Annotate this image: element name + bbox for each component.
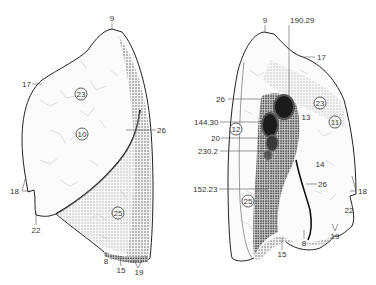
circled-label-12: 12 [230, 123, 242, 135]
label-18-right: 18 [358, 187, 367, 196]
label-19-left: 19 [135, 268, 144, 277]
label-22-right: 22 [345, 206, 354, 215]
svg-text:10: 10 [78, 130, 87, 139]
label-9-right: 9 [263, 16, 268, 25]
bronchus-upper [274, 95, 294, 119]
lateral-lung-view [22, 29, 153, 263]
bronchus-middle [262, 113, 278, 137]
svg-text:25: 25 [244, 197, 253, 206]
label-8-right: 8 [302, 239, 307, 248]
vessel-small [264, 150, 272, 160]
circled-label-10: 10 [76, 128, 88, 140]
svg-text:23: 23 [316, 99, 325, 108]
label-144-30: 144.30 [194, 118, 219, 127]
circled-label-25-right: 25 [242, 195, 254, 207]
label-15-left: 15 [117, 266, 126, 275]
label-20: 20 [211, 134, 220, 143]
label-17-right: 17 [317, 53, 326, 62]
label-15-right: 15 [278, 250, 287, 259]
label-13: 13 [302, 113, 311, 122]
lung-diagram: 23 10 25 9 17 26 18 22 8 15 19 [0, 0, 376, 285]
label-19-right: 19 [331, 232, 340, 241]
label-17: 17 [22, 80, 31, 89]
label-14: 14 [316, 160, 325, 169]
svg-text:23: 23 [77, 90, 86, 99]
circled-label-25: 25 [112, 207, 124, 219]
label-26-right-upper: 26 [216, 95, 225, 104]
label-26-right-lower: 26 [318, 180, 327, 189]
label-26-left: 26 [157, 126, 166, 135]
circled-label-11: 11 [329, 116, 341, 128]
label-190-29: 190.29 [290, 16, 315, 25]
label-22-left: 22 [32, 226, 41, 235]
svg-text:12: 12 [232, 125, 241, 134]
label-230-2: 230.2 [198, 147, 219, 156]
circled-label-23: 23 [75, 88, 87, 100]
circled-label-23-right: 23 [314, 97, 326, 109]
label-18-left: 18 [10, 187, 19, 196]
label-9: 9 [110, 14, 115, 23]
label-152-23: 152.23 [193, 185, 218, 194]
vessel-lower [266, 135, 278, 151]
label-8-left: 8 [104, 257, 109, 266]
svg-text:11: 11 [331, 118, 340, 127]
svg-text:25: 25 [114, 209, 123, 218]
